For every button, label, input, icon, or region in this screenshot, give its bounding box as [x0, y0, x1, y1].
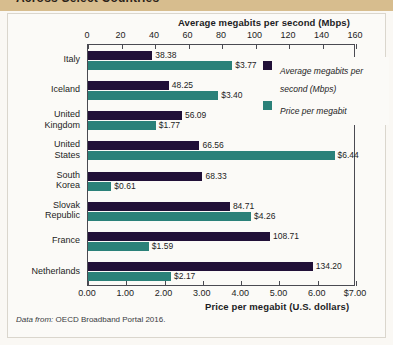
bottom-tick-mark [318, 281, 319, 286]
category-axis-labels: ItalyIcelandUnitedKingdomUnitedStatesSou… [0, 44, 84, 286]
bottom-tick-label: 4.00 [231, 288, 249, 298]
bottom-tick-mark [203, 281, 204, 286]
bottom-tick-label: 5.00 [270, 288, 288, 298]
top-tick-label: 100 [247, 30, 262, 40]
source-note: Data from: OECD Broadband Portal 2016. [16, 315, 165, 324]
bar-value-label-price: $3.77 [235, 61, 256, 70]
legend-label-price: Price per megabit [280, 106, 347, 116]
top-tick-label: 160 [347, 30, 362, 40]
legend-swatch-price-icon [263, 101, 272, 110]
bar-value-label-mbps: 68.33 [205, 172, 226, 181]
bar-row: 66.56$6.44 [88, 141, 354, 160]
bar-mbps [88, 262, 313, 271]
bar-value-label-price: $3.40 [221, 91, 242, 100]
top-tick-label: 80 [216, 30, 226, 40]
bottom-tick-mark [241, 281, 242, 286]
bar-price [88, 242, 149, 251]
top-tick-label: 140 [314, 30, 329, 40]
bar-value-label-price: $4.26 [254, 212, 275, 221]
top-tick-label: 0 [84, 30, 89, 40]
bar-price [88, 151, 335, 160]
top-tick-label: 40 [149, 30, 159, 40]
bar-value-label-mbps: 84.71 [233, 202, 254, 211]
bottom-tick-label: $7.00 [344, 288, 367, 298]
legend-item-price: Price per megabit [263, 100, 385, 118]
chart-legend: Average megabits per second (Mbps) Price… [259, 57, 389, 125]
top-tick-mark [222, 44, 223, 49]
chart-title: Across Select Countries [16, 0, 159, 5]
chart-title-band: Across Select Countries [0, 0, 393, 11]
bottom-tick-label: 3.00 [193, 288, 211, 298]
category-label: UnitedKingdom [44, 109, 80, 130]
bar-value-label-price: $2.17 [174, 272, 195, 281]
bar-value-label-mbps: 38.38 [155, 51, 176, 60]
top-axis-title: Average megabits per second (Mbps) [178, 17, 350, 28]
top-tick-mark [256, 44, 257, 49]
category-label: Netherlands [31, 266, 80, 277]
bottom-axis-tick-labels: 0.001.002.003.004.005.006.00$7.00 [0, 288, 393, 300]
source-lead: Data from: [16, 315, 53, 324]
top-tick-label: 120 [280, 30, 295, 40]
bar-price [88, 121, 156, 130]
category-label: France [52, 235, 80, 246]
bar-mbps [88, 51, 152, 60]
top-tick-mark [323, 44, 324, 49]
bar-value-label-mbps: 66.56 [202, 141, 223, 150]
bar-row: 84.71$4.26 [88, 202, 354, 221]
bar-row: 68.33$0.61 [88, 172, 354, 191]
bottom-tick-label: 0.00 [78, 288, 96, 298]
bottom-tick-mark [88, 281, 89, 286]
bottom-axis-title: Price per megabit (U.S. dollars) [205, 301, 349, 312]
bar-mbps [88, 202, 230, 211]
category-label: SlovakRepublic [45, 200, 80, 221]
top-tick-label: 20 [115, 30, 125, 40]
bottom-tick-mark [279, 281, 280, 286]
bottom-tick-mark [165, 281, 166, 286]
bar-price [88, 182, 111, 191]
bottom-tick-label: 6.00 [308, 288, 326, 298]
bar-row: 134.20$2.17 [88, 262, 354, 281]
bar-price [88, 272, 171, 281]
bar-value-label-mbps: 134.20 [316, 262, 342, 271]
bar-price [88, 91, 218, 100]
bottom-tick-label: 2.00 [155, 288, 173, 298]
bar-price [88, 61, 232, 70]
bar-value-label-price: $0.61 [114, 182, 135, 191]
category-label: SouthKorea [56, 170, 80, 191]
legend-swatch-mbps-icon [263, 61, 272, 70]
top-axis-tick-labels: 020406080100120140160 [0, 30, 393, 42]
top-tick-mark [189, 44, 190, 49]
bar-row: 108.71$1.59 [88, 232, 354, 251]
bottom-tick-label: 1.00 [117, 288, 135, 298]
top-tick-mark [122, 44, 123, 49]
bar-mbps [88, 81, 169, 90]
bar-mbps [88, 141, 199, 150]
bar-price [88, 212, 251, 221]
bar-value-label-mbps: 56.09 [185, 111, 206, 120]
top-tick-mark [289, 44, 290, 49]
bar-mbps [88, 172, 202, 181]
top-tick-label: 60 [182, 30, 192, 40]
bar-value-label-mbps: 108.71 [273, 232, 299, 241]
bar-value-label-price: $6.44 [338, 151, 359, 160]
bar-value-label-price: $1.77 [159, 121, 180, 130]
category-label: Iceland [51, 84, 80, 95]
bar-mbps [88, 232, 270, 241]
bar-mbps [88, 111, 182, 120]
bottom-tick-mark [356, 281, 357, 286]
bottom-tick-mark [126, 281, 127, 286]
bar-value-label-price: $1.59 [152, 242, 173, 251]
top-tick-mark [356, 44, 357, 49]
legend-label-mbps: Average megabits per second (Mbps) [280, 66, 363, 94]
legend-item-mbps: Average megabits per second (Mbps) [263, 60, 385, 96]
category-label: Italy [63, 54, 80, 65]
chart-figure: Across Select Countries Average megabits… [0, 0, 393, 345]
top-tick-mark [88, 44, 89, 49]
top-tick-mark [155, 44, 156, 49]
category-label: UnitedStates [54, 139, 80, 160]
bar-value-label-mbps: 48.25 [172, 81, 193, 90]
source-text: OECD Broadband Portal 2016. [53, 315, 165, 324]
